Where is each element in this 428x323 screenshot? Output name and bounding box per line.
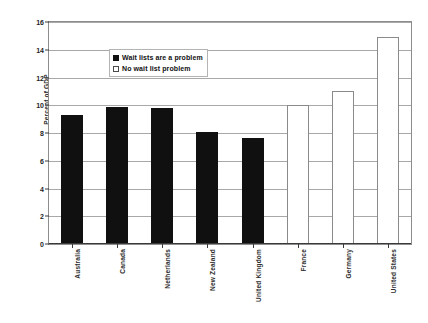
y-tick-label: 0 (40, 241, 44, 248)
x-axis-label: New Zealand (209, 249, 216, 291)
x-axis-label: Australia (74, 249, 81, 279)
bar-slot (366, 22, 411, 244)
chart-legend: Wait lists are a problem No wait list pr… (109, 49, 208, 77)
y-tick-label: 2 (40, 213, 44, 220)
y-tick-label: 10 (36, 102, 44, 109)
x-axis-label: Canada (119, 249, 126, 274)
legend-item: Wait lists are a problem (113, 52, 203, 63)
x-tick-mark (207, 244, 208, 248)
x-axis-label: Netherlands (164, 249, 171, 289)
legend-swatch-hollow-icon (113, 66, 119, 72)
y-tick-label: 12 (36, 74, 44, 81)
x-axis-label: United States (390, 249, 397, 293)
bar-group (49, 22, 411, 244)
bar (61, 115, 83, 244)
bar-slot (230, 22, 275, 244)
legend-label: Wait lists are a problem (122, 54, 203, 61)
x-tick-mark (117, 244, 118, 248)
plot-area: 0246810121416 Wait lists are a problem N… (48, 21, 412, 245)
legend-swatch-filled-icon (113, 55, 119, 61)
bar (242, 138, 264, 244)
legend-label: No wait list problem (122, 65, 191, 72)
bar (196, 132, 218, 244)
bar-slot (49, 22, 94, 244)
y-tick-label: 8 (40, 130, 44, 137)
x-tick-mark (298, 244, 299, 248)
x-axis-label: France (300, 249, 307, 272)
x-axis-label: United Kingdom (255, 249, 262, 302)
x-tick-mark (72, 244, 73, 248)
x-tick-mark (162, 244, 163, 248)
y-tick-label: 4 (40, 185, 44, 192)
x-tick-mark (388, 244, 389, 248)
bar-slot (321, 22, 366, 244)
x-axis-label: Germany (345, 249, 352, 279)
bar (287, 105, 309, 244)
bar-slot (275, 22, 320, 244)
bar (377, 37, 399, 244)
bar (106, 107, 128, 244)
y-tick-label: 14 (36, 46, 44, 53)
bar (151, 108, 173, 244)
y-tick-label: 16 (36, 19, 44, 26)
y-tick-label: 6 (40, 157, 44, 164)
x-tick-mark (343, 244, 344, 248)
x-axis-baseline (49, 243, 411, 244)
legend-item: No wait list problem (113, 63, 203, 74)
bar-chart-figure: Percent of GDP 0246810121416 Wait lists … (0, 0, 428, 323)
bar (332, 91, 354, 244)
x-tick-mark (253, 244, 254, 248)
